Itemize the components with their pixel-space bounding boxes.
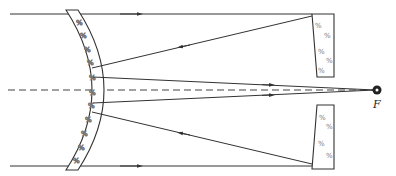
svg-text:%: % [87, 59, 94, 67]
secondary-mirror-bottom: % % % % [312, 105, 334, 169]
svg-text:%: % [76, 19, 83, 27]
svg-text:%: % [324, 32, 331, 40]
focal-point [373, 86, 382, 95]
svg-text:%: % [318, 140, 325, 148]
focal-point-label: F [373, 98, 381, 111]
svg-text:%: % [73, 157, 80, 165]
svg-text:%: % [78, 144, 85, 152]
svg-text:%: % [326, 57, 333, 65]
svg-text:%: % [318, 48, 325, 56]
svg-text:%: % [326, 152, 333, 160]
svg-text:%: % [84, 46, 91, 54]
svg-text:%: % [318, 67, 325, 75]
secondary-mirror-top: % % % % % [312, 14, 334, 77]
svg-text:%: % [319, 114, 326, 122]
svg-text:%: % [80, 32, 87, 40]
svg-text:%: % [81, 130, 88, 138]
svg-text:%: % [315, 22, 322, 30]
svg-text:%: % [326, 123, 333, 131]
svg-text:%: % [89, 89, 96, 97]
svg-text:%: % [85, 116, 92, 124]
svg-text:%: % [89, 74, 96, 82]
optics-diagram: % % % % % % % % % % % % % % % % % % % % [0, 0, 396, 176]
